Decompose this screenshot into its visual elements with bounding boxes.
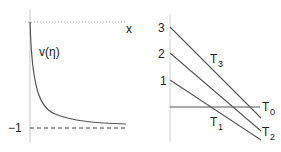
label-t0: T 0 [262, 100, 275, 117]
diagram-canvas: x v(η) −1 3 2 1 T 3 T 0 T 1 T 2 [0, 0, 281, 152]
label-t2: T 2 [262, 125, 275, 142]
curve-label: v(η) [39, 45, 60, 59]
svg-text:T: T [262, 100, 270, 114]
left-panel: x v(η) −1 [8, 10, 132, 142]
svg-text:T: T [262, 125, 270, 139]
svg-text:2: 2 [270, 132, 275, 142]
y-tick-1: 1 [160, 74, 167, 88]
x-axis-label: x [126, 22, 132, 36]
label-t1: T 1 [210, 115, 223, 132]
v-eta-curve [30, 22, 126, 124]
svg-text:3: 3 [218, 59, 223, 69]
svg-text:T: T [210, 52, 218, 66]
svg-text:1: 1 [218, 122, 223, 132]
y-tick-2: 2 [158, 47, 165, 61]
y-tick-3: 3 [158, 21, 165, 35]
label-t3: T 3 [210, 52, 223, 69]
svg-text:T: T [210, 115, 218, 129]
line-t1 [170, 80, 261, 140]
right-panel: 3 2 1 T 3 T 0 T 1 T 2 [158, 14, 275, 142]
line-t3 [170, 27, 261, 118]
asymptote-label: −1 [8, 121, 22, 135]
svg-text:0: 0 [270, 107, 275, 117]
